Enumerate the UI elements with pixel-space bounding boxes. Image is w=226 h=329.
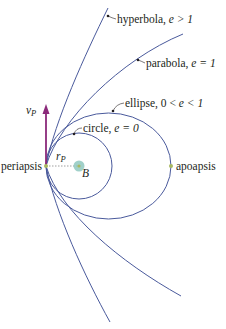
circle-label: circle, e = 0 [83,122,139,135]
body-label: B [82,167,89,179]
velocity-arrowhead [43,104,50,114]
velocity-label: vP [26,104,36,118]
periapsis-label: periapsis [1,160,42,173]
hyperbola-label: hyperbola, e > 1 [117,13,193,26]
apoapsis-point [169,164,173,168]
parabola-curve [46,34,183,296]
ellipse-label: ellipse, 0 < e < 1 [125,97,203,110]
parabola-label: parabola, e = 1 [146,57,216,70]
apoapsis-label: apoapsis [176,160,216,173]
orbit-diagram: hyperbola, e > 1 parabola, e = 1 ellipse… [0,0,226,329]
radius-label: rP [56,150,66,164]
periapsis-point [44,164,48,168]
